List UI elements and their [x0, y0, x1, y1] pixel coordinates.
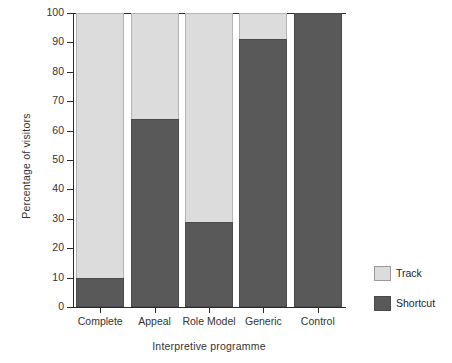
bar-segment-shortcut[interactable] [76, 278, 124, 307]
y-tick-mark [67, 307, 73, 308]
legend-swatch-shortcut [374, 296, 391, 311]
x-tick-label: Role Model [182, 315, 235, 327]
legend-label: Shortcut [396, 297, 435, 309]
bar-segment-shortcut[interactable] [239, 39, 287, 307]
bar-segment-track[interactable] [131, 13, 179, 119]
bar-group[interactable] [76, 13, 124, 307]
y-tick-label: 10 [4, 272, 64, 283]
y-tick-label: 40 [4, 183, 64, 194]
bar-segment-shortcut[interactable] [185, 222, 233, 307]
bar-group[interactable] [239, 13, 287, 307]
y-tick-label: 0 [4, 301, 64, 312]
y-tick-label: 90 [4, 36, 64, 47]
x-tick-mark [318, 308, 319, 313]
y-tick-label: 60 [4, 125, 64, 136]
x-tick-mark [209, 308, 210, 313]
legend-swatch-track [374, 266, 391, 281]
legend-label: Track [396, 267, 422, 279]
bars-layer [73, 13, 345, 307]
y-tick-label: 50 [4, 154, 64, 165]
legend-item[interactable]: Shortcut [374, 292, 435, 314]
bar-segment-track[interactable] [76, 13, 124, 278]
stacked-bar-chart: Percentage of visitors 01020304050607080… [0, 0, 452, 363]
x-tick-label: Control [301, 315, 335, 327]
legend-item[interactable]: Track [374, 262, 435, 284]
bar-segment-track[interactable] [185, 13, 233, 222]
x-tick-label: Complete [78, 315, 123, 327]
bar-segment-shortcut[interactable] [131, 119, 179, 307]
chart-legend: TrackShortcut [374, 262, 435, 322]
bar-segment-track[interactable] [239, 13, 287, 39]
x-axis-title: Interpretive programme [73, 340, 345, 352]
y-tick-label: 80 [4, 66, 64, 77]
y-tick-label: 70 [4, 95, 64, 106]
bar-group[interactable] [131, 13, 179, 307]
y-tick-label: 30 [4, 213, 64, 224]
x-tick-mark [155, 308, 156, 313]
y-tick-label: 100 [4, 7, 64, 18]
y-tick-label: 20 [4, 242, 64, 253]
x-tick-mark [100, 308, 101, 313]
bar-group[interactable] [185, 13, 233, 307]
x-tick-mark [263, 308, 264, 313]
bar-group[interactable] [294, 13, 342, 307]
x-tick-label: Generic [245, 315, 282, 327]
x-tick-label: Appeal [138, 315, 171, 327]
bar-segment-shortcut[interactable] [294, 13, 342, 307]
